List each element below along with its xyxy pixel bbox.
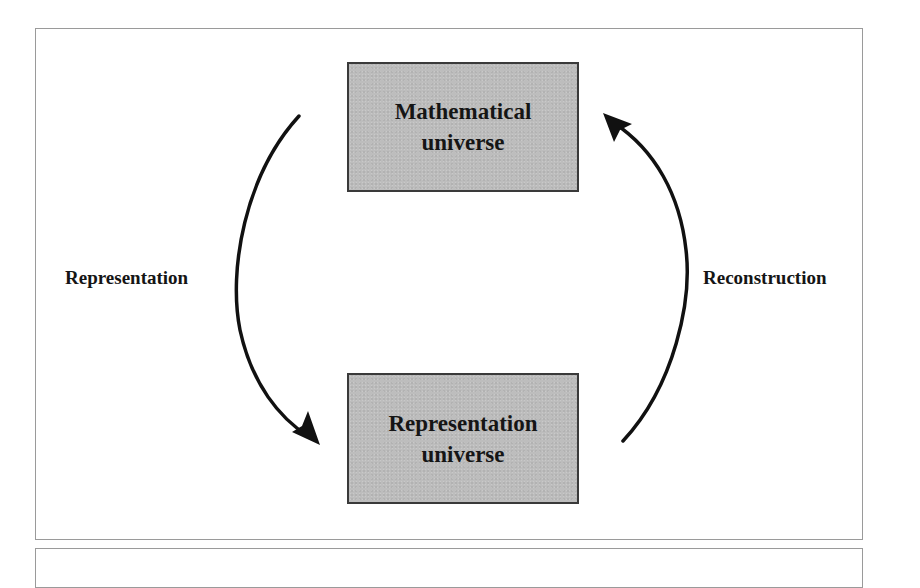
node-mathematical-universe: Mathematical universe bbox=[347, 62, 579, 192]
node-label-line1: Mathematical bbox=[395, 96, 532, 127]
node-label-line1: Representation bbox=[388, 408, 537, 439]
edge-label-representation: Representation bbox=[65, 267, 188, 289]
node-label-line2: universe bbox=[421, 439, 504, 470]
next-figure-frame bbox=[35, 548, 863, 588]
edge-label-reconstruction: Reconstruction bbox=[703, 267, 826, 289]
node-label-line2: universe bbox=[421, 127, 504, 158]
node-representation-universe: Representation universe bbox=[347, 373, 579, 504]
